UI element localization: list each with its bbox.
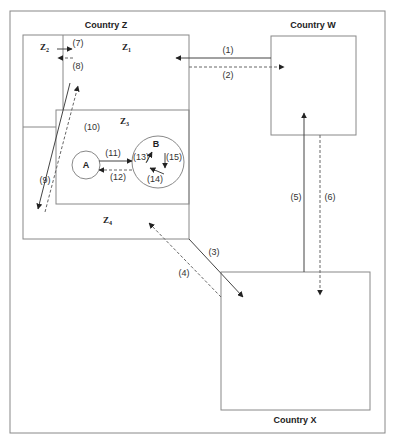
flow-10-label: (10): [84, 122, 100, 132]
flow-diagram: Country Z Z2 Z1 Z3 Z4 Country W Country …: [0, 0, 393, 441]
outer-frame: [10, 11, 385, 433]
country-w: Country W: [271, 20, 356, 135]
zone-z3-label: Z3: [120, 116, 129, 127]
flow-5-label: (5): [291, 192, 302, 202]
zone-z4-label: Z4: [103, 215, 112, 226]
flow-11-label: (11): [105, 148, 120, 158]
node-b-label: B: [153, 139, 160, 149]
flow-4-label: (4): [179, 268, 190, 278]
flow-6-label: (6): [325, 192, 336, 202]
country-z-label: Country Z: [85, 20, 128, 30]
node-a-label: A: [83, 160, 90, 170]
flow-13-label: (13): [133, 152, 149, 162]
flow-14-label: (14): [147, 174, 163, 184]
flow-9-label: (9): [40, 175, 51, 185]
flow-3-label: (3): [209, 247, 220, 257]
flow-8-label: (8): [73, 61, 84, 71]
flow-15-label: (15): [166, 152, 182, 162]
flow-7-label: (7): [73, 38, 84, 48]
flow-12-label: (12): [110, 172, 126, 182]
flow-10-arrow: [45, 86, 78, 212]
flow-1-label: (1): [223, 45, 234, 55]
flow-9-arrow: [38, 83, 70, 209]
country-x: Country X: [221, 272, 370, 425]
zone-z1-label: Z1: [122, 42, 131, 53]
country-w-label: Country W: [290, 20, 336, 30]
country-w-box: [271, 36, 356, 135]
zone-z2-label: Z2: [40, 42, 49, 53]
country-x-box: [221, 272, 370, 410]
flow-4-arrow: [149, 223, 221, 297]
flow-2-label: (2): [223, 70, 234, 80]
country-x-label: Country X: [273, 415, 316, 425]
